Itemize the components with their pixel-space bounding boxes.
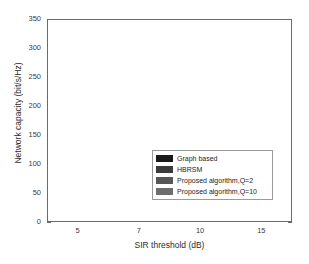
x-tick-label: 10 xyxy=(180,226,220,235)
legend-item: HBRSM xyxy=(156,164,269,175)
legend-swatch xyxy=(156,188,173,195)
legend: Graph basedHBRSMProposed algorithm,Q=2Pr… xyxy=(152,150,273,200)
x-tick-label: 7 xyxy=(119,226,159,235)
legend-label: Proposed algorithm,Q=2 xyxy=(177,177,253,185)
legend-item: Proposed algorithm,Q=10 xyxy=(156,186,269,197)
x-axis-title: SIR threshold (dB) xyxy=(47,240,292,250)
legend-item: Graph based xyxy=(156,153,269,164)
x-tick-label: 5 xyxy=(58,226,98,235)
y-tick-label: 0 xyxy=(19,218,41,226)
y-tick-mark xyxy=(47,222,51,223)
x-tick-label: 15 xyxy=(241,226,281,235)
figure-canvas: 050100150200250300350 571015 SIR thresho… xyxy=(0,0,309,264)
legend-swatch xyxy=(156,155,173,162)
legend-label: Graph based xyxy=(177,155,217,163)
y-axis-title: Network capacity (bit/s/Hz) xyxy=(13,13,23,213)
legend-label: Proposed algorithm,Q=10 xyxy=(177,188,257,196)
legend-swatch xyxy=(156,177,173,184)
legend-item: Proposed algorithm,Q=2 xyxy=(156,175,269,186)
y-tick-mark-right xyxy=(288,222,292,223)
legend-swatch xyxy=(156,166,173,173)
legend-label: HBRSM xyxy=(177,166,202,174)
